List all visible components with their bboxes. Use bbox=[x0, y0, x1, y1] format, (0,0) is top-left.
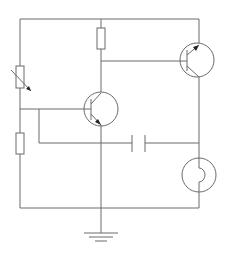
variable-resistor bbox=[11, 66, 31, 91]
transistor-q1 bbox=[84, 92, 118, 126]
capacitor bbox=[132, 135, 145, 152]
resistor-left bbox=[16, 133, 24, 154]
circuit-diagram bbox=[0, 0, 228, 266]
transistor-q2 bbox=[180, 43, 214, 77]
ground-symbol bbox=[84, 233, 118, 241]
resistor-top bbox=[97, 28, 105, 49]
lamp bbox=[182, 158, 216, 192]
